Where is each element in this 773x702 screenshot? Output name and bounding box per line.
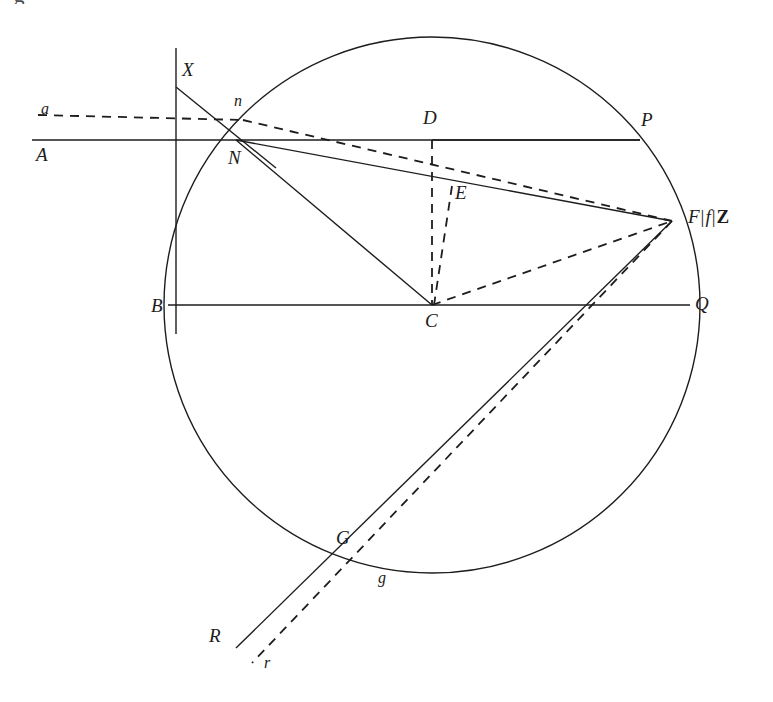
label-G: G: [336, 528, 350, 547]
dashed-F-to-r: [252, 221, 672, 663]
ray-F-to-R: [236, 221, 672, 648]
label-a: a: [41, 101, 49, 117]
dashed-E-to-C: [434, 186, 452, 305]
solid-line-group: [32, 48, 690, 648]
dashed-C-to-F: [432, 221, 672, 305]
label-g: g: [378, 570, 386, 586]
geometry-figure: g F|f|Z aAXnNBDECPQGgRr: [0, 0, 773, 702]
focus-point-label: F|f|Z: [688, 207, 729, 226]
focus-label-f: f: [705, 206, 710, 227]
diagram-canvas: [0, 0, 773, 702]
label-D: D: [423, 108, 437, 127]
label-N: N: [228, 148, 241, 167]
label-P: P: [641, 110, 653, 129]
dashed-line-group: [38, 115, 672, 663]
focus-label-Z: Z: [717, 206, 730, 227]
focus-label-F: F: [688, 206, 700, 227]
label-R: R: [209, 626, 221, 645]
ray-N-to-C: [236, 140, 432, 305]
label-E: E: [455, 183, 467, 202]
dashed-ray-n-to-F: [243, 120, 672, 221]
label-A: A: [36, 145, 48, 164]
label-r: r: [264, 655, 270, 671]
label-B: B: [151, 296, 163, 315]
label-X: X: [182, 60, 194, 79]
label-n: n: [234, 93, 242, 109]
ray-N-to-F: [236, 140, 672, 221]
label-Q: Q: [695, 294, 709, 313]
label-C: C: [425, 311, 438, 330]
